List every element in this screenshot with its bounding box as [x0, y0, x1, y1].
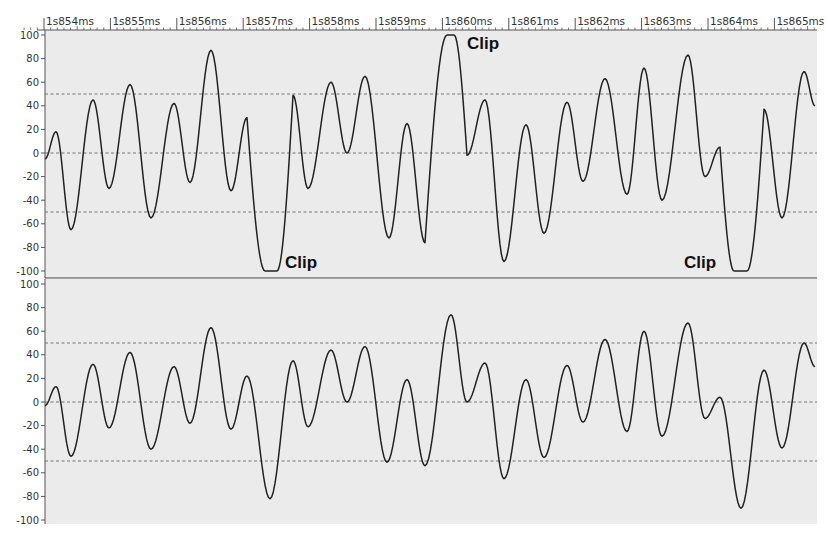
y-tick-label: 60	[26, 326, 39, 337]
y-tick-label: 20	[26, 124, 39, 135]
time-tick-label: 1s855ms	[112, 15, 160, 27]
clip-annotation: Clip	[467, 34, 499, 53]
y-tick-label: -80	[23, 242, 39, 253]
y-tick-label: 100	[20, 30, 39, 41]
y-tick-label: -80	[23, 491, 39, 502]
waveform-svg: 1s854ms1s855ms1s856ms1s857ms1s858ms1s859…	[0, 0, 827, 543]
time-tick-label: 1s858ms	[312, 15, 360, 27]
y-tick-label: 60	[26, 77, 39, 88]
y-tick-label: 80	[26, 53, 39, 64]
time-tick-label: 1s860ms	[444, 15, 492, 27]
waveform-chart: 1s854ms1s855ms1s856ms1s857ms1s858ms1s859…	[0, 0, 827, 543]
clip-annotation: Clip	[684, 253, 716, 272]
time-tick-label: 1s864ms	[710, 15, 758, 27]
y-tick-label: 40	[26, 349, 39, 360]
time-tick-label: 1s861ms	[511, 15, 559, 27]
y-tick-label: 0	[33, 397, 39, 408]
y-tick-label: -100	[16, 515, 39, 526]
y-tick-label: -100	[16, 266, 39, 277]
plot-background-bottom	[45, 279, 817, 524]
time-tick-label: 1s859ms	[378, 15, 426, 27]
time-ruler: 1s854ms1s855ms1s856ms1s857ms1s858ms1s859…	[24, 15, 824, 30]
y-tick-label: -40	[23, 444, 39, 455]
y-tick-label: 20	[26, 373, 39, 384]
time-tick-label: 1s856ms	[179, 15, 227, 27]
y-tick-label: 80	[26, 302, 39, 313]
y-tick-label: -60	[23, 218, 39, 229]
time-tick-label: 1s863ms	[644, 15, 692, 27]
time-tick-label: 1s862ms	[577, 15, 625, 27]
time-tick-label: 1s857ms	[245, 15, 293, 27]
y-tick-label: -20	[23, 420, 39, 431]
y-tick-label: -60	[23, 467, 39, 478]
y-tick-label: -20	[23, 171, 39, 182]
y-tick-label: 0	[33, 148, 39, 159]
y-tick-label: 40	[26, 100, 39, 111]
y-tick-label: -40	[23, 195, 39, 206]
clip-annotation: Clip	[285, 253, 317, 272]
time-tick-label: 1s854ms	[46, 15, 94, 27]
y-tick-label: 100	[20, 279, 39, 290]
time-tick-label: 1s865ms	[776, 15, 824, 27]
